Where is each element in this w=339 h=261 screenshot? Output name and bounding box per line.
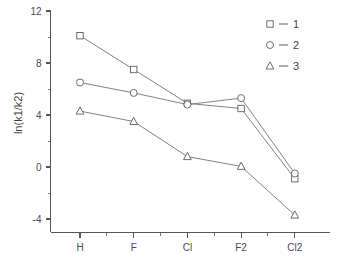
x-axis-tick-labels: HFClF2Cl2 [76,242,302,253]
data-point-series-1-H [77,33,83,39]
data-point-series-2-F2 [238,95,245,102]
y-tick-label: -4 [33,214,42,225]
chart-container: ln(k1/k2) -404812 HFClF2Cl2 123 [0,0,339,261]
y-axis-major-ticks [46,11,51,219]
legend-marker-1 [267,21,273,27]
y-tick-label: 0 [36,162,42,173]
data-point-series-3-Cl [184,152,192,159]
series-lines-group [80,36,295,215]
series-line-3 [80,111,295,215]
x-tick-label: F2 [235,242,247,253]
x-tick-label: H [76,242,83,253]
legend-label-2: 2 [293,39,299,51]
legend-marker-2 [267,42,274,49]
y-axis-title-group: ln(k1/k2) [12,92,24,134]
legend-label-3: 3 [293,60,299,72]
data-point-series-2-F [130,89,137,96]
x-axis-ticks [80,233,295,238]
x-tick-label: F [131,242,137,253]
data-point-series-2-H [77,79,84,86]
x-tick-label: Cl2 [287,242,302,253]
x-tick-label: Cl [183,242,192,253]
data-point-series-1-F2 [238,105,244,111]
data-point-series-2-Cl2 [291,170,298,177]
data-point-series-2-Cl [184,101,191,108]
data-point-series-3-H [76,107,84,114]
series-markers-group [76,33,299,219]
legend-label-1: 1 [293,18,299,30]
data-point-series-3-Cl2 [291,211,299,218]
y-tick-label: 12 [30,6,42,17]
axes-group [51,11,331,233]
y-tick-label: 4 [36,110,42,121]
chart-legend: 123 [266,18,299,72]
y-tick-label: 8 [36,58,42,69]
data-point-series-1-F [131,66,137,72]
line-chart: ln(k1/k2) -404812 HFClF2Cl2 123 [0,0,339,261]
y-axis-title: ln(k1/k2) [12,92,24,134]
legend-marker-3 [266,62,274,69]
y-axis-tick-labels: -404812 [30,6,42,225]
